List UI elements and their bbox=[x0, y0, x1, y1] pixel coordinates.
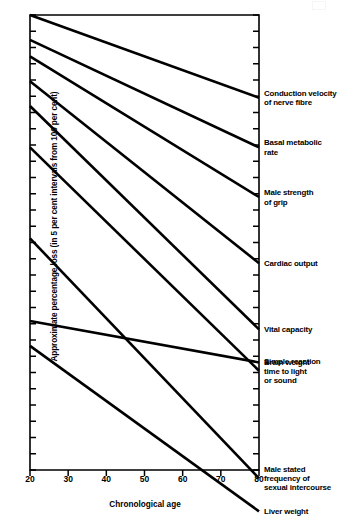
x-tick-label-60: 60 bbox=[171, 474, 195, 484]
x-axis-title: Chronological age bbox=[0, 500, 290, 509]
x-tick-label-70: 70 bbox=[209, 474, 233, 484]
scan-artifact bbox=[312, 1, 326, 10]
y-axis-title: Approximate percentage loss (in 5 per ce… bbox=[50, 77, 59, 377]
series-label-7: Brain weight bbox=[264, 358, 310, 367]
series-label-2: Male strength of grip bbox=[264, 188, 313, 207]
series-label-4: Vital capacity bbox=[264, 325, 312, 334]
series-label-3: Cardiac output bbox=[264, 259, 318, 268]
x-tick-label-20: 20 bbox=[18, 474, 42, 484]
series-label-0: Conduction velocity of nerve fibre bbox=[264, 89, 337, 108]
series-label-8: Liver weight bbox=[264, 507, 308, 516]
x-tick-label-30: 30 bbox=[56, 474, 80, 484]
series-label-1: Basal metabolic rate bbox=[264, 138, 322, 157]
x-tick-label-40: 40 bbox=[94, 474, 118, 484]
series-label-6: Male stated frequency of sexual intercou… bbox=[264, 465, 331, 493]
x-tick-label-50: 50 bbox=[133, 474, 157, 484]
